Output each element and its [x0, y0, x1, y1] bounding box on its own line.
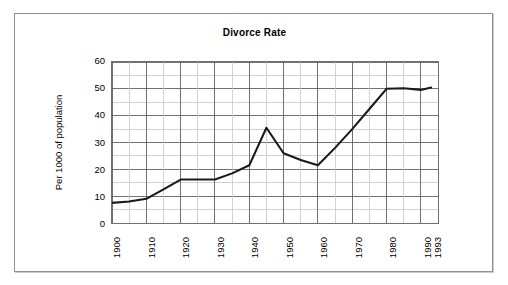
plot-area [111, 61, 439, 224]
x-tick-label: 1980 [387, 237, 399, 283]
x-tick-label: 1920 [180, 237, 192, 283]
x-tick-label: 1960 [318, 237, 330, 283]
x-tick-label: 1950 [284, 237, 296, 283]
y-tick-label: 50 [67, 83, 105, 93]
chart-page: Divorce Rate Per 1000 of population 6050… [0, 0, 508, 285]
x-tick-label: 1940 [249, 237, 261, 283]
chart-frame: Divorce Rate Per 1000 of population 6050… [14, 13, 493, 272]
chart-title: Divorce Rate [15, 27, 494, 38]
x-tick-label: 1970 [353, 237, 365, 283]
series-polyline [112, 87, 431, 202]
y-tick-label: 60 [67, 56, 105, 66]
y-axis-title-label: Per 1000 of population [51, 61, 67, 224]
y-tick-label: 20 [67, 165, 105, 175]
y-axis-tick-labels: 6050403020100 [67, 61, 105, 224]
x-tick-label: 1910 [146, 237, 158, 283]
x-axis-tick-labels: 1900191019201930194019501960197019801990… [111, 225, 441, 285]
y-axis-title: Per 1000 of population [51, 0, 67, 61]
y-tick-label: 40 [67, 111, 105, 121]
x-tick-label: 1993 [432, 237, 444, 283]
x-tick-label: 1900 [111, 237, 123, 283]
y-tick-label: 30 [67, 138, 105, 148]
data-series-line [112, 62, 438, 223]
y-tick-label: 0 [67, 219, 105, 229]
x-tick-label: 1930 [215, 237, 227, 283]
plot-inner [112, 62, 438, 223]
y-tick-label: 10 [67, 192, 105, 202]
